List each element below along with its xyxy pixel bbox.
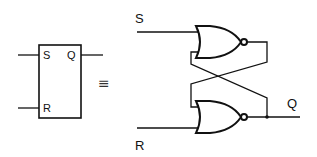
symbol-q-label: Q <box>67 49 76 61</box>
symbol-r-label: R <box>43 102 51 114</box>
r-input-label: R <box>135 138 144 153</box>
top-nor-bubble <box>241 39 247 45</box>
symbol-s-label: S <box>43 49 50 61</box>
s-input-label: S <box>135 11 144 26</box>
q-output-label: Q <box>287 96 297 111</box>
nor-latch-circuit: S R Q <box>135 11 300 153</box>
junction-dot <box>265 115 269 119</box>
sr-latch-symbol: S R Q <box>18 45 103 118</box>
bottom-nor-gate <box>196 101 241 133</box>
equivalence-sign: ≡ <box>98 75 110 91</box>
bottom-nor-bubble <box>241 114 247 120</box>
top-nor-gate <box>196 26 241 58</box>
sr-latch-diagram: S R Q ≡ S R Q <box>0 0 317 157</box>
